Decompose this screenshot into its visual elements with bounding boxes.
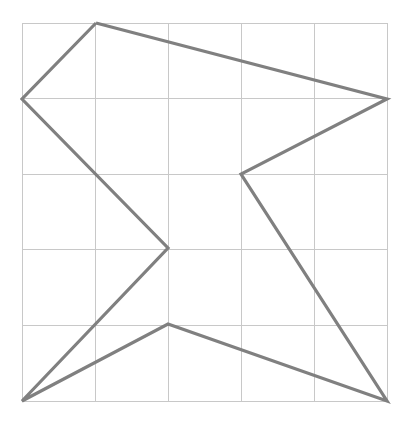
polygon-figure — [0, 0, 406, 428]
figure-canvas — [0, 0, 406, 428]
polygon-outline — [22, 23, 387, 401]
